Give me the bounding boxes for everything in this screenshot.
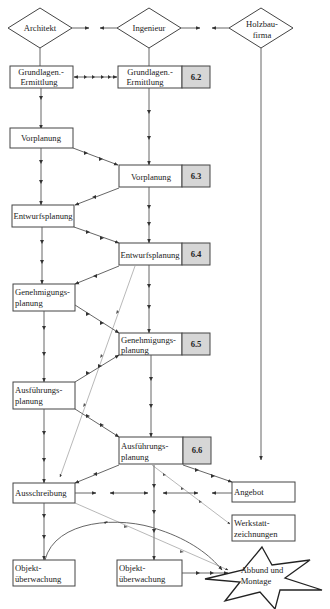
engineer-vorplanung-box: Vorplanung 6.3 — [119, 165, 210, 187]
architect-objekt-box: Objekt- überwachung — [13, 560, 75, 586]
svg-text:zeichnungen: zeichnungen — [234, 529, 278, 539]
svg-text:Montage: Montage — [241, 576, 272, 586]
svg-text:6.6: 6.6 — [192, 445, 203, 455]
svg-text:6.4: 6.4 — [191, 249, 202, 259]
svg-text:Genehmigungs-: Genehmigungs- — [15, 287, 70, 297]
architect-grundlagen-box: Grundlagen.- Ermittlung — [10, 66, 73, 88]
svg-text:überwachung: überwachung — [15, 574, 62, 584]
workflow-diagram: Architekt Ingenieur Holzbau- firma Grund… — [0, 0, 330, 609]
svg-text:planung: planung — [121, 452, 149, 462]
architect-vorplanung-box: Vorplanung — [10, 128, 73, 148]
abbund-montage-star: Abbund und Montage — [205, 547, 322, 609]
svg-text:planung: planung — [15, 298, 43, 308]
actor-holzbaufirma-label-1: Holzbau- — [246, 19, 278, 29]
engineer-objekt-box: Objekt- überwachung — [117, 560, 182, 586]
svg-text:6.5: 6.5 — [191, 339, 202, 349]
svg-text:Genehmigungs-: Genehmigungs- — [121, 335, 176, 345]
svg-text:Entwurfsplanung: Entwurfsplanung — [120, 250, 180, 260]
svg-text:Entwurfsplanung: Entwurfsplanung — [13, 211, 73, 221]
actor-architekt: Architekt — [8, 8, 72, 48]
svg-text:6.3: 6.3 — [191, 171, 202, 181]
actor-architekt-label: Architekt — [24, 23, 57, 33]
actor-holzbaufirma-label-2: firma — [253, 30, 272, 40]
svg-text:planung: planung — [15, 396, 43, 406]
svg-text:Ausführungs-: Ausführungs- — [121, 441, 168, 451]
svg-text:Vorplanung: Vorplanung — [21, 133, 62, 143]
svg-text:Grundlagen.-: Grundlagen.- — [127, 67, 173, 77]
architect-genehmigung-box: Genehmigungs- planung — [13, 284, 75, 311]
engineer-ausfuehrung-box: Ausführungs- planung 6.6 — [119, 437, 211, 464]
engineer-genehmigung-box: Genehmigungs- planung 6.5 — [119, 333, 210, 355]
svg-text:Objekt-: Objekt- — [119, 563, 145, 573]
architect-entwurfsplanung-box: Entwurfsplanung — [12, 205, 74, 227]
svg-text:Vorplanung: Vorplanung — [131, 172, 172, 182]
svg-text:6.2: 6.2 — [191, 72, 202, 82]
svg-text:planung: planung — [121, 345, 149, 355]
contractor-werkstatt-box: Werkstatt- zeichnungen — [232, 515, 295, 541]
svg-text:Grundlagen.-: Grundlagen.- — [18, 67, 64, 77]
svg-text:Objekt-: Objekt- — [15, 563, 41, 573]
engineer-grundlagen-box: Grundlagen.- Ermittlung 6.2 — [118, 66, 210, 88]
engineer-entwurfsplanung-box: Entwurfsplanung 6.4 — [119, 243, 210, 265]
svg-text:überwachung: überwachung — [119, 574, 166, 584]
svg-text:Ermittlung: Ermittlung — [20, 77, 58, 87]
svg-text:Ausschreibung: Ausschreibung — [15, 488, 67, 498]
architect-ausschreibung-box: Ausschreibung — [13, 483, 75, 503]
svg-text:Abbund und: Abbund und — [241, 565, 284, 575]
actor-holzbaufirma: Holzbau- firma — [229, 8, 293, 48]
svg-text:Werkstatt-: Werkstatt- — [234, 518, 270, 528]
contractor-angebot-box: Angebot — [232, 482, 295, 502]
svg-text:Ermittlung: Ermittlung — [126, 77, 164, 87]
svg-text:Ausführungs-: Ausführungs- — [15, 385, 62, 395]
actor-ingenieur-label: Ingenieur — [133, 23, 166, 33]
actor-ingenieur: Ingenieur — [117, 8, 181, 48]
architect-ausfuehrung-box: Ausführungs- planung — [13, 382, 75, 409]
svg-text:Angebot: Angebot — [234, 487, 264, 497]
